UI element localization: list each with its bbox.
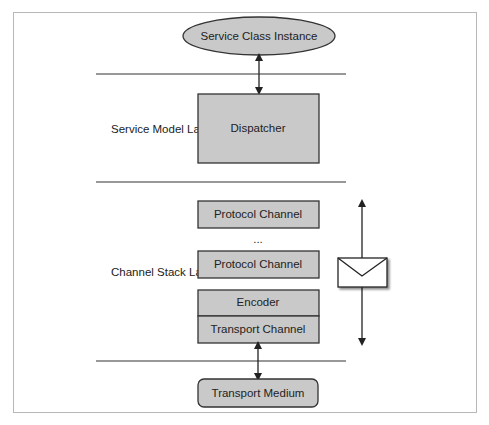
encoder-label: Encoder: [237, 296, 280, 308]
protocol-channel-label-2: Protocol Channel: [214, 258, 302, 270]
dispatcher-label: Dispatcher: [231, 122, 286, 134]
transport-medium-node: Transport Medium: [198, 379, 318, 407]
protocol-channel-label-1: Protocol Channel: [214, 208, 302, 220]
transport-channel-label: Transport Channel: [211, 323, 306, 335]
transport-channel-node: Transport Channel: [198, 316, 319, 343]
service-class-instance-node: Service Class Instance: [183, 17, 335, 55]
envelope-icon: [338, 258, 387, 287]
ellipsis-label: ...: [253, 233, 263, 245]
wcf-architecture-diagram: Service Class Instance Service Model Lay…: [0, 0, 489, 425]
protocol-channel-node-1: Protocol Channel: [198, 201, 319, 228]
encoder-node: Encoder: [198, 290, 319, 316]
service-class-instance-label: Service Class Instance: [201, 30, 318, 42]
dispatcher-node: Dispatcher: [198, 94, 319, 163]
transport-medium-label: Transport Medium: [212, 387, 305, 399]
protocol-channel-node-2: Protocol Channel: [198, 251, 319, 278]
